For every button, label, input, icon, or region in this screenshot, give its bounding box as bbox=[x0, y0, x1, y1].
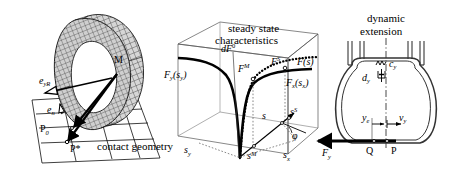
title-dynamic-line2: extension bbox=[360, 25, 403, 37]
label-force-Fy: Fy bbox=[321, 147, 331, 160]
spring-symbol bbox=[376, 61, 386, 65]
label-slip-angle: φ bbox=[292, 130, 298, 141]
label-stiffness: cy bbox=[389, 58, 396, 70]
label-deflection: ye bbox=[361, 112, 369, 124]
point-p0-marker bbox=[71, 127, 74, 130]
panel-steady-state: steady state characteristics dF0 FM FS F… bbox=[163, 22, 318, 162]
label-Fy-sy: Fy(sy) bbox=[163, 69, 187, 81]
label-velocity: vy bbox=[399, 112, 406, 124]
figure-root: M eyR en P0 P* contact geometry bbox=[0, 0, 455, 170]
point-p-marker bbox=[386, 140, 389, 143]
panel-contact-geometry: M eyR en P0 P* contact geometry bbox=[32, 14, 174, 163]
damper-symbol bbox=[378, 69, 385, 82]
deflection-dimension bbox=[372, 118, 384, 142]
label-slip-x: sx bbox=[283, 149, 290, 162]
title-dynamic-line1: dynamic bbox=[367, 12, 405, 24]
label-slip-resultant: s bbox=[262, 110, 266, 121]
diagram-svg: M eyR en P0 P* contact geometry bbox=[0, 0, 455, 170]
label-wheel-center: M bbox=[114, 54, 123, 65]
title-steady-state-line1: steady state bbox=[228, 22, 279, 34]
label-damping: dy bbox=[362, 72, 370, 84]
label-point-p: P bbox=[391, 145, 397, 156]
label-point-q: Q bbox=[366, 145, 374, 156]
marker-FM bbox=[251, 77, 255, 81]
marker-FS bbox=[283, 66, 287, 70]
label-slip-slide: sS bbox=[290, 106, 298, 117]
label-e-yR: eyR bbox=[39, 75, 50, 87]
tire-torus-mesh bbox=[54, 14, 143, 129]
point-pstar-marker bbox=[65, 140, 68, 143]
label-slip-y: sy bbox=[184, 144, 191, 157]
label-F-of-s: F(s) bbox=[296, 56, 314, 68]
label-FM: FM bbox=[237, 62, 250, 74]
point-q-marker bbox=[373, 140, 376, 143]
label-Fx-sx: Fx(sx) bbox=[285, 77, 309, 89]
label-slip-max: sM bbox=[247, 150, 257, 161]
label-point-pstar: P* bbox=[70, 143, 81, 154]
caption-contact-geometry: contact geometry bbox=[97, 140, 174, 152]
panel-dynamic-extension: dynamic extension bbox=[318, 12, 436, 160]
curve-Fy bbox=[178, 58, 240, 158]
label-FS: FS bbox=[270, 55, 281, 67]
